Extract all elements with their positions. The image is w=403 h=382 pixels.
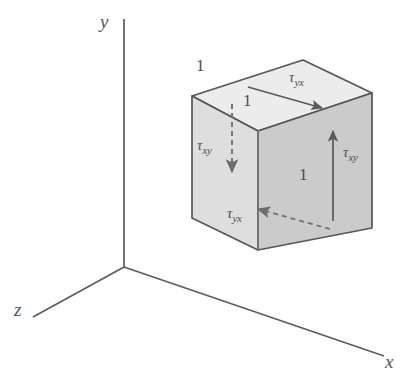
dimension-label-top-left: 1 [196,57,205,74]
dimension-label-top-inner: 1 [243,92,252,109]
stress-subscript-right: xy [348,151,357,163]
stress-subscript-bottom: yx [232,212,241,224]
axis-label-y: y [100,12,108,31]
shear-stress-cube-figure: y z x 1 1 1 τyx τxy τyx τxy [0,0,403,382]
axis-label-x: x [385,352,393,371]
stress-label-right-tau-xy: τxy [343,145,358,163]
stress-label-left-tau-xy: τxy [197,138,212,156]
x-axis-line [124,267,384,356]
dimension-label-right: 1 [299,166,308,183]
axis-label-z: z [14,300,21,319]
z-axis-line [33,267,124,317]
stress-label-top-tau-yx: τyx [289,70,304,88]
stress-subscript-top: yx [294,76,303,88]
stress-label-bottom-tau-yx: τyx [227,206,242,224]
stress-subscript-left: xy [202,144,211,156]
